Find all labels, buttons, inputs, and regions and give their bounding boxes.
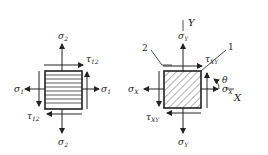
direction-2-label: 2 [142,43,148,53]
sigmax-left-label: σX [128,84,139,95]
sigma1-right-label: σ1 [101,84,111,95]
tau12-bottom-label: τ12 [27,111,40,122]
left-element: σ2 σ2 σ1 σ1 τ12 τ12 [14,31,111,148]
right-element-box [164,71,201,108]
sigma2-top-label: σ2 [58,31,68,42]
direction-1-label: 1 [228,42,234,52]
x-axis-label: X [233,92,242,103]
sigma2-bottom-label: σ2 [58,137,68,148]
sigma1-left-label: σ1 [14,84,24,95]
tau12-top-label: τ12 [86,54,99,65]
stress-element-diagram: σ2 σ2 σ1 σ1 τ12 τ12 Y X 2 1 θ [0,0,268,155]
theta-arc-icon [214,79,219,89]
direction-2-line [151,50,172,65]
y-axis-label: Y [188,17,196,28]
sigmay-bottom-label: σY [178,137,189,148]
right-element: Y X 2 1 θ σY σY σX σX τXY τXY [128,17,242,148]
sigmay-top-label: σY [178,31,189,42]
sigmax-right-label: σX [222,84,233,95]
tauxy-bottom-label: τXY [146,112,160,123]
tauxy-top-label: τXY [205,54,219,65]
